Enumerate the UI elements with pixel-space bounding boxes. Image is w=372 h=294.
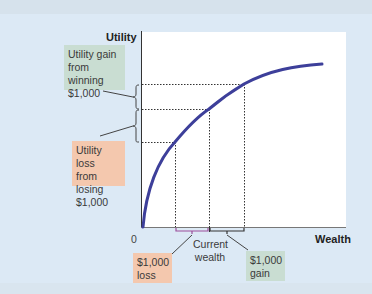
utility-chart — [0, 0, 372, 294]
wealth-gain-label: $1,000 gain — [246, 251, 285, 281]
wealth-loss-pointer — [172, 235, 192, 254]
utility-gain-label: Utility gain from winning $1,000 — [64, 45, 125, 90]
gain-bracket — [210, 228, 244, 231]
wealth-gain-pointer — [227, 235, 248, 250]
reference-lines — [142, 84, 245, 227]
y-axis-label: Utility — [106, 31, 137, 43]
utility-curve — [143, 64, 322, 227]
gain-pointer — [103, 91, 133, 97]
loss-brace — [133, 110, 139, 142]
wealth-loss-label: $1,000 loss — [133, 253, 172, 283]
utility-loss-label: Utility loss from losing $1,000 — [72, 141, 125, 186]
utility-braces — [133, 85, 139, 142]
loss-pointer — [100, 126, 133, 136]
origin-label: 0 — [131, 233, 137, 245]
x-axis-label: Wealth — [315, 233, 351, 245]
loss-bracket — [176, 228, 208, 231]
gain-brace — [133, 85, 139, 109]
current-wealth-label: Current wealth — [193, 238, 227, 264]
